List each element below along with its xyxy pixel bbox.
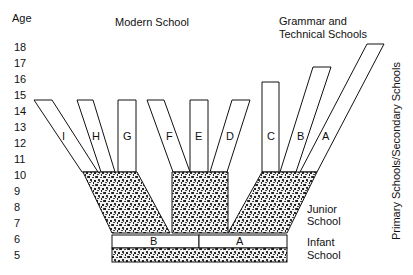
branch-label-C: C [267, 130, 275, 142]
junior-block-left [83, 172, 170, 233]
junior-label-line1: Junior [307, 203, 337, 215]
infant-base [112, 248, 287, 262]
junior-block-right [228, 172, 317, 233]
branch-label-B: B [297, 130, 304, 142]
branch-C [262, 82, 279, 172]
branch-label-F: F [166, 130, 173, 142]
branch-label-D: D [226, 130, 234, 142]
branch-label-G: G [123, 130, 132, 142]
branch-label-H: H [92, 130, 100, 142]
branch-label-A: A [322, 130, 329, 142]
vertical-label: Primary Schools/Secondary Schools [390, 62, 402, 240]
junior-block-middle [172, 172, 228, 233]
junior-label-line2: School [307, 215, 341, 227]
infant-label-line1: Infant [307, 236, 335, 248]
infant-label-line2: School [307, 249, 341, 261]
infant-label-B: B [150, 235, 157, 247]
branch-label-I: I [62, 130, 65, 142]
branch-label-E: E [195, 130, 202, 142]
infant-label-A: A [236, 235, 243, 247]
